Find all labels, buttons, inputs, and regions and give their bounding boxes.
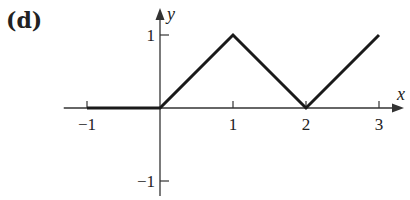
x-tick-label: −1	[78, 115, 96, 134]
chart: (d) −11231−1 x y	[0, 0, 410, 200]
series-line	[87, 35, 379, 108]
plot-area: (d) −11231−1 x y	[0, 0, 410, 200]
panel-label: (d)	[6, 7, 42, 33]
y-axis-label: y	[165, 4, 175, 24]
y-tick-label: −1	[137, 172, 155, 191]
x-axis-label: x	[396, 84, 405, 104]
x-tick-label: 1	[229, 115, 238, 134]
data-series	[87, 35, 379, 108]
y-tick-label: 1	[147, 26, 156, 45]
x-tick-label: 3	[375, 115, 384, 134]
x-axis-arrow-icon	[392, 104, 404, 113]
y-axis-arrow-icon	[156, 8, 165, 20]
x-tick-label: 2	[302, 115, 311, 134]
